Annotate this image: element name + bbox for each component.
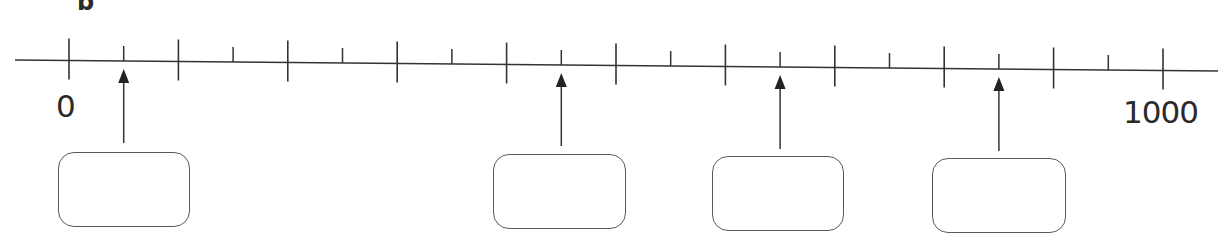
answer-box-2[interactable] [493,154,626,229]
start-label: 0 [56,91,75,122]
arrow-up-icon [993,77,1004,151]
arrow-up-icon [118,69,129,143]
number-line-diagram: b 0 1000 [0,0,1221,242]
end-label: 1000 [1123,97,1198,128]
arrow-up-icon [775,75,786,149]
arrow-up-icon [556,73,567,146]
answer-box-1[interactable] [58,152,190,227]
arrows [118,69,1004,151]
answer-box-3[interactable] [712,156,844,231]
answer-box-4[interactable] [932,158,1066,233]
